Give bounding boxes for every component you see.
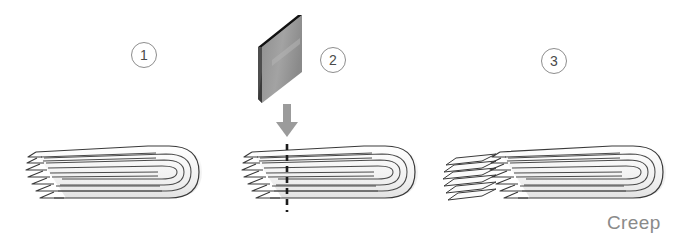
step1-ply-stack xyxy=(26,146,202,198)
cutting-blade-icon xyxy=(258,15,302,103)
step3-trimmed-stack xyxy=(490,146,666,198)
downward-press-arrow-icon xyxy=(276,104,298,137)
figure-canvas: 1 2 3 Creep xyxy=(0,0,675,237)
step2-ply-stack xyxy=(242,146,418,198)
diagram-artwork xyxy=(0,0,675,237)
step3-offcut-pile xyxy=(443,154,496,200)
step-badge-2: 2 xyxy=(320,47,346,73)
creep-label: Creep xyxy=(607,212,661,234)
step-badge-3: 3 xyxy=(541,48,567,74)
step-badge-1: 1 xyxy=(131,42,157,68)
